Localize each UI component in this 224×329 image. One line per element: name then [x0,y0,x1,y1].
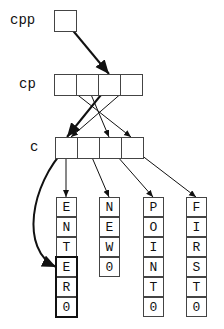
c-cell-2 [99,137,122,159]
c-cell-1 [77,137,100,159]
point-char-5: 0 [143,297,164,317]
point-char-1: O [143,217,164,237]
first-char-5: 0 [186,297,207,317]
new-char-0: N [99,197,120,217]
first-char-4: T [186,277,207,297]
c-cell-3 [121,137,144,159]
cp-cell-3 [120,74,143,96]
cp-cell-1 [76,74,99,96]
point-char-2: I [143,237,164,257]
point-char-3: N [143,257,164,277]
new-char-2: W [99,237,120,257]
label-cp: cp [19,76,36,92]
first-char-3: S [186,257,207,277]
first-char-2: R [186,237,207,257]
first-char-0: F [186,197,207,217]
c-cell-0 [55,137,78,159]
first-char-1: I [186,217,207,237]
enter-char-2: T [56,237,77,257]
new-char-1: E [99,217,120,237]
enter-char-4: R [56,277,77,297]
new-char-3: 0 [99,257,120,277]
label-c: c [30,139,38,155]
point-char-4: T [143,277,164,297]
label-cpp: cpp [10,12,35,28]
enter-char-0: E [56,197,77,217]
point-char-0: P [143,197,164,217]
cp-cell-2 [98,74,121,96]
cp-cell-0 [54,74,77,96]
enter-char-3: E [56,257,77,277]
enter-char-1: N [56,217,77,237]
cpp-cell [54,10,77,32]
enter-char-5: 0 [56,297,77,317]
